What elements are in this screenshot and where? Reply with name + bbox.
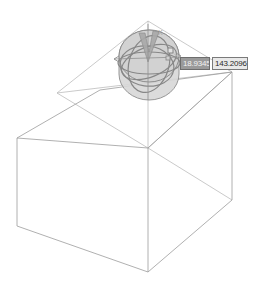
gizmo-axis-label-x: X — [158, 29, 163, 36]
box-top-edge-sw — [17, 138, 148, 148]
box-bottom-edge-sw — [17, 226, 148, 272]
guide-diagonal-lower — [148, 148, 232, 200]
scene-canvas[interactable]: X — [0, 0, 263, 288]
guide-left-to-bottom — [57, 93, 148, 148]
gizmo-drag-handle-secondary[interactable] — [166, 56, 170, 60]
cad-viewport[interactable]: X 18.9345 143.2096 — [0, 0, 263, 288]
wireframe-box-edges — [17, 72, 232, 272]
reference-angle-input[interactable]: 143.2096 — [212, 57, 248, 70]
box-top-edge-nw — [17, 90, 100, 138]
box-bottom-edge-se — [148, 200, 232, 272]
angle-input[interactable]: 18.9345 — [180, 57, 210, 70]
gizmo-drag-handle[interactable] — [168, 48, 173, 53]
